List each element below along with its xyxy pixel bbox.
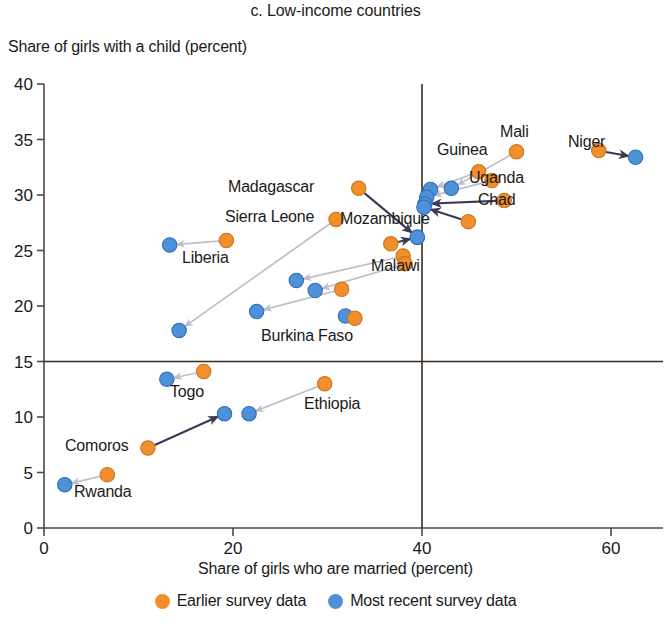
point-earlier [141, 441, 155, 455]
point-recent [249, 304, 263, 318]
svg-text:30: 30 [14, 186, 33, 205]
point-earlier [384, 237, 398, 251]
point-recent [58, 478, 72, 492]
svg-text:20: 20 [224, 539, 243, 558]
point-recent [172, 323, 186, 337]
legend-marker-earlier [155, 594, 170, 609]
point-earlier [334, 282, 348, 296]
legend-marker-recent [328, 594, 343, 609]
point-earlier [509, 145, 523, 159]
point-recent [289, 273, 303, 287]
country-label: Madagascar [228, 179, 314, 195]
point-recent [308, 283, 322, 297]
point-earlier [100, 468, 114, 482]
country-label: Togo [170, 384, 204, 400]
point-recent [242, 406, 256, 420]
svg-text:15: 15 [14, 353, 33, 372]
point-recent [628, 150, 642, 164]
svg-text:20: 20 [14, 297, 33, 316]
svg-text:5: 5 [24, 464, 33, 483]
legend-item-earlier: Earlier survey data [155, 592, 307, 610]
country-label: Malawi [371, 258, 420, 274]
svg-text:10: 10 [14, 408, 33, 427]
country-label: Liberia [182, 250, 229, 266]
point-earlier [461, 214, 475, 228]
scatter-plot-canvas: 05101520253035400204060 [0, 0, 671, 630]
svg-text:35: 35 [14, 131, 33, 150]
point-earlier [219, 233, 233, 247]
country-label: Uganda [469, 170, 524, 186]
country-label: Niger [568, 134, 605, 150]
point-recent [444, 181, 458, 195]
country-label: Rwanda [74, 484, 132, 500]
point-earlier [348, 311, 362, 325]
svg-text:60: 60 [602, 539, 621, 558]
country-label: Mozambique [340, 211, 430, 227]
data-points [58, 143, 643, 492]
x-axis-label: Share of girls who are married (percent) [0, 560, 671, 578]
point-recent [217, 406, 231, 420]
legend-item-recent: Most recent survey data [328, 592, 516, 610]
country-label: Sierra Leone [225, 209, 314, 225]
svg-text:0: 0 [39, 539, 48, 558]
point-earlier [197, 364, 211, 378]
legend-label-recent: Most recent survey data [350, 592, 516, 610]
svg-text:0: 0 [24, 519, 33, 538]
chart-figure: c. Low-income countries Share of girls w… [0, 0, 671, 630]
svg-text:40: 40 [14, 75, 33, 94]
point-earlier [351, 181, 365, 195]
country-label: Burkina Faso [261, 328, 353, 344]
point-earlier [317, 377, 331, 391]
country-label: Mali [500, 124, 529, 140]
svg-text:25: 25 [14, 242, 33, 261]
country-label: Comoros [65, 438, 129, 454]
country-label: Guinea [437, 142, 487, 158]
country-label: Ethiopia [304, 396, 360, 412]
chart-legend: Earlier survey data Most recent survey d… [0, 592, 671, 610]
legend-label-earlier: Earlier survey data [177, 592, 307, 610]
point-recent [410, 230, 424, 244]
point-recent [162, 238, 176, 252]
country-label: Chad [478, 192, 515, 208]
svg-text:40: 40 [413, 539, 432, 558]
